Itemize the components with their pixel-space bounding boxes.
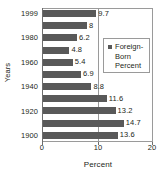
bar <box>43 34 77 41</box>
x-tick-label: 0 <box>32 143 52 152</box>
bar-value-label: 5.4 <box>75 57 86 67</box>
x-axis-tick-labels: 0 10 20 <box>0 143 166 155</box>
legend-label: Percent <box>115 61 146 71</box>
y-tick-label: 1940 <box>21 83 38 91</box>
legend-label: Born <box>115 52 146 62</box>
bar <box>43 59 73 66</box>
bar <box>43 95 107 102</box>
bar <box>43 83 91 90</box>
bar-row: 8.8 <box>43 81 153 93</box>
x-tick-label: 20 <box>142 143 162 152</box>
y-tick-label: 1960 <box>21 59 38 67</box>
bar-row: 14.7 <box>43 118 153 130</box>
bar-value-label: 8.8 <box>93 82 104 92</box>
y-axis-tick-labels: 1999 1980 1960 1940 1920 1900 <box>0 8 40 142</box>
bar-row: 11.6 <box>43 93 153 105</box>
bar-value-label: 9.7 <box>98 9 109 19</box>
legend-entry: Foreign- <box>108 42 146 52</box>
y-tick-label: 1920 <box>21 108 38 116</box>
bar <box>43 71 81 78</box>
bar-value-label: 4.8 <box>71 45 82 55</box>
legend-swatch-icon <box>108 45 112 49</box>
bar-value-label: 8 <box>89 21 93 31</box>
bar-row: 13.6 <box>43 130 153 142</box>
x-tick-label: 10 <box>88 143 108 152</box>
bar <box>43 120 124 127</box>
bar <box>43 132 118 139</box>
bar-row: 8 <box>43 20 153 32</box>
bar-value-label: 14.7 <box>126 118 141 128</box>
foreign-born-percent-bar-chart: Years 1999 1980 1960 1940 1920 1900 9.7 … <box>0 0 166 189</box>
x-axis-title: Percent <box>43 160 153 169</box>
bar-value-label: 11.6 <box>109 94 123 104</box>
bar <box>43 22 87 29</box>
bar-row: 9.7 <box>43 8 153 20</box>
y-tick-label: 1980 <box>21 34 38 42</box>
bar-value-label: 6.9 <box>83 69 94 79</box>
bar <box>43 47 69 54</box>
bar-series: 9.7 8 6.2 4.8 5.4 6.9 8.8 11.6 <box>43 8 153 142</box>
bar-value-label: 13.2 <box>118 106 133 116</box>
bar <box>43 10 96 17</box>
bar-value-label: 6.2 <box>79 33 90 43</box>
bar-value-label: 13.6 <box>120 130 135 140</box>
legend-label: Foreign- <box>115 42 143 52</box>
bar <box>43 107 116 114</box>
y-tick-label: 1900 <box>21 132 38 140</box>
y-tick-label: 1999 <box>21 10 38 18</box>
bar-row: 13.2 <box>43 105 153 117</box>
legend: Foreign- Born Percent <box>103 38 150 73</box>
